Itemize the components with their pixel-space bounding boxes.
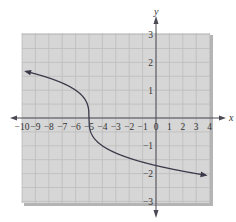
- x-tick-label: −10: [15, 122, 30, 132]
- x-tick-labels: −10−9−8−7−6−5−4−3−2−101234: [15, 122, 213, 132]
- x-tick-label: −7: [57, 122, 67, 132]
- x-axis-left-arrow-icon: [10, 116, 17, 121]
- x-axis-right-arrow-icon: [219, 116, 226, 121]
- y-tick-label: −1: [143, 141, 153, 151]
- y-axis-down-arrow-icon: [154, 210, 159, 218]
- y-tick-label: 2: [148, 58, 153, 68]
- y-tick-label: 3: [148, 30, 153, 40]
- x-axis-label: x: [228, 112, 234, 123]
- x-tick-label: −3: [111, 122, 121, 132]
- y-axis-up-arrow-icon: [154, 16, 159, 24]
- x-tick-label: 3: [194, 122, 199, 132]
- x-tick-label: −2: [124, 122, 134, 132]
- x-tick-label: −6: [71, 122, 81, 132]
- x-tick-label: 2: [180, 122, 185, 132]
- x-tick-label: 4: [207, 122, 212, 132]
- x-tick-label: −8: [44, 122, 54, 132]
- x-tick-label: −9: [30, 122, 40, 132]
- x-tick-label: 0: [154, 122, 159, 132]
- y-tick-label: −2: [143, 169, 153, 179]
- x-tick-label: −4: [97, 122, 107, 132]
- x-tick-label: 1: [167, 122, 172, 132]
- y-tick-label: 1: [148, 86, 153, 96]
- y-axis-label: y: [153, 6, 159, 17]
- y-tick-label: −3: [143, 197, 153, 207]
- x-tick-label: −1: [138, 122, 148, 132]
- graph: x y −10−9−8−7−6−5−4−3−2−101234 321−1−2−3: [0, 0, 236, 222]
